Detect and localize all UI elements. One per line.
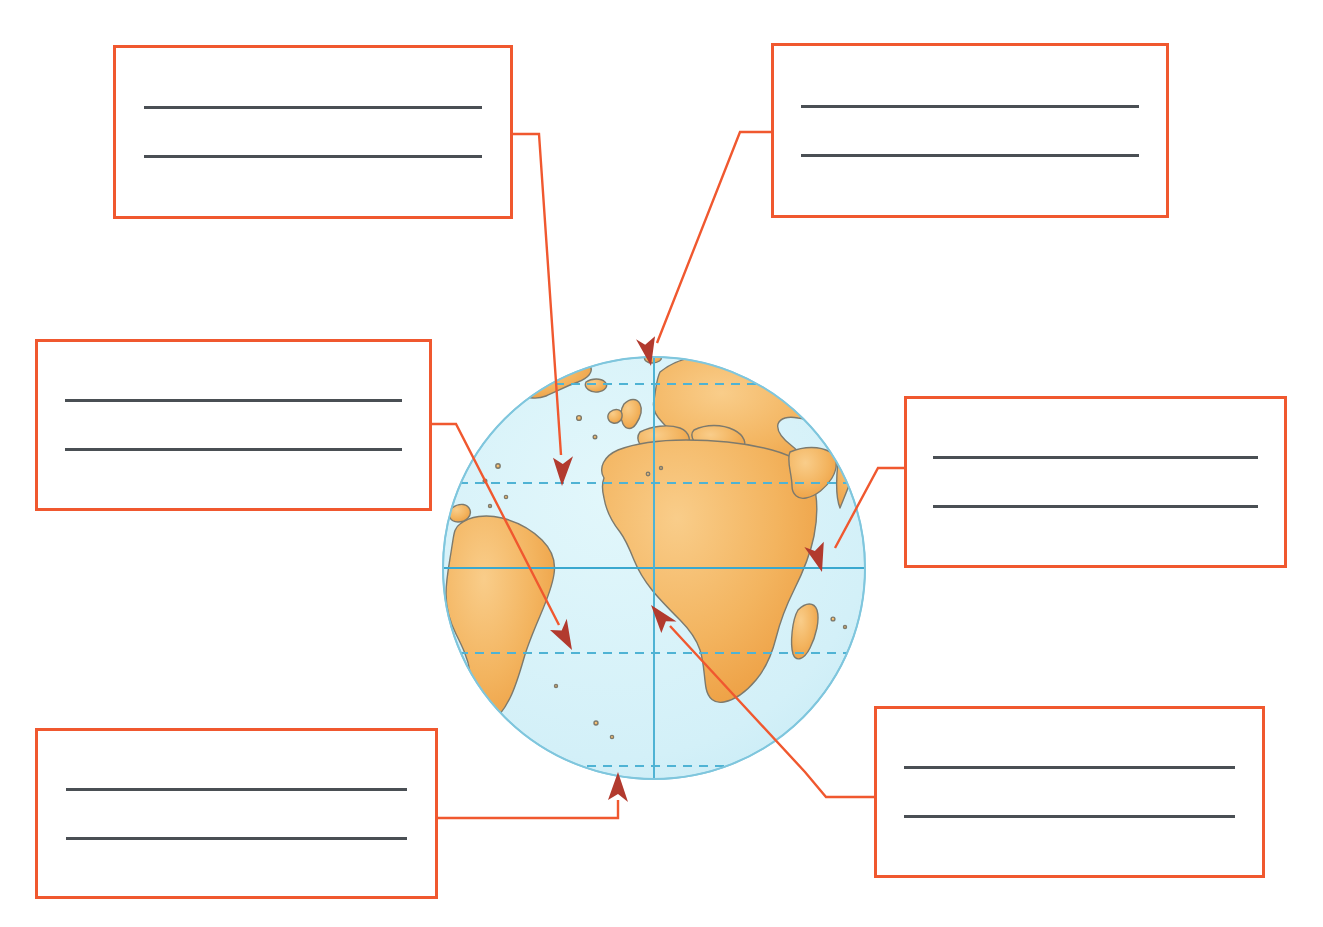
line-gap	[774, 108, 1166, 154]
line-gap	[116, 109, 510, 155]
line-gap	[877, 769, 1262, 815]
line-gap	[38, 791, 435, 837]
writing-line	[904, 815, 1235, 818]
label-box-bottom-right[interactable]	[874, 706, 1265, 878]
arrowhead-tropic-of-capricorn	[549, 619, 581, 655]
label-box-top-right[interactable]	[771, 43, 1169, 218]
connector-bottom-right	[670, 626, 874, 797]
label-box-middle-right[interactable]	[904, 396, 1287, 568]
label-box-middle-left[interactable]	[35, 339, 432, 511]
writing-line	[65, 448, 401, 451]
writing-line	[144, 155, 483, 158]
connector-middle-right	[835, 468, 904, 548]
arrowheads	[549, 333, 835, 802]
worksheet-canvas	[0, 0, 1323, 927]
label-box-top-left[interactable]	[113, 45, 513, 219]
connector-middle-left	[432, 424, 559, 625]
writing-line	[933, 505, 1257, 508]
arrowhead-equator	[804, 539, 834, 575]
writing-line	[801, 154, 1138, 157]
line-gap	[907, 459, 1284, 505]
connector-bottom-left	[438, 800, 618, 818]
arrowhead-tropic-of-cancer	[552, 456, 573, 487]
writing-line	[66, 837, 407, 840]
label-box-bottom-left[interactable]	[35, 728, 438, 899]
arrowhead-antarctic-circle	[608, 772, 628, 802]
connector-top-right	[657, 132, 771, 343]
connector-top-left	[513, 134, 561, 455]
line-gap	[38, 402, 429, 448]
